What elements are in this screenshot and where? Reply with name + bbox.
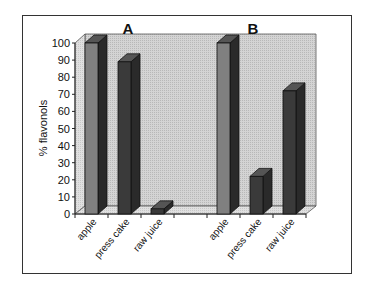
y-tick-label: 70 bbox=[58, 88, 70, 100]
y-tick-label: 80 bbox=[58, 71, 70, 83]
y-tick-label: 30 bbox=[58, 157, 70, 169]
y-tick-label: 100 bbox=[52, 37, 70, 49]
x-tick-label: raw juice bbox=[131, 216, 165, 254]
y-tick-label: 50 bbox=[58, 123, 70, 135]
bar-b-apple bbox=[217, 35, 239, 214]
y-tick-label: 60 bbox=[58, 105, 70, 117]
bar-a-apple bbox=[85, 35, 107, 214]
x-tick-label: press cake bbox=[224, 216, 264, 260]
panel-title-a: A bbox=[123, 20, 134, 37]
panel-title-b: B bbox=[248, 20, 259, 37]
bar-a-press-cake bbox=[118, 54, 140, 214]
y-tick-label: 90 bbox=[58, 54, 70, 66]
bar-b-press-cake bbox=[250, 168, 272, 214]
x-tick-label: apple bbox=[206, 216, 230, 242]
y-axis-ticks: 0102030405060708090100 bbox=[52, 37, 75, 220]
y-tick-label: 40 bbox=[58, 140, 70, 152]
floor bbox=[75, 206, 316, 214]
x-tick-label: raw juice bbox=[263, 216, 297, 254]
bar-chart: 0102030405060708090100 applepress cakera… bbox=[0, 0, 371, 291]
y-axis-label: % flavonols bbox=[37, 99, 49, 156]
y-tick-label: 20 bbox=[58, 174, 70, 186]
bar-b-raw-juice bbox=[283, 83, 305, 214]
y-tick-label: 10 bbox=[58, 191, 70, 203]
x-tick-label: press cake bbox=[92, 216, 132, 260]
x-axis-labels: applepress cakeraw juiceapplepress caker… bbox=[74, 216, 296, 260]
x-tick-label: apple bbox=[74, 216, 98, 242]
side-wall bbox=[75, 34, 85, 214]
x-axis-ticks bbox=[75, 214, 306, 218]
y-tick-label: 0 bbox=[64, 208, 70, 220]
